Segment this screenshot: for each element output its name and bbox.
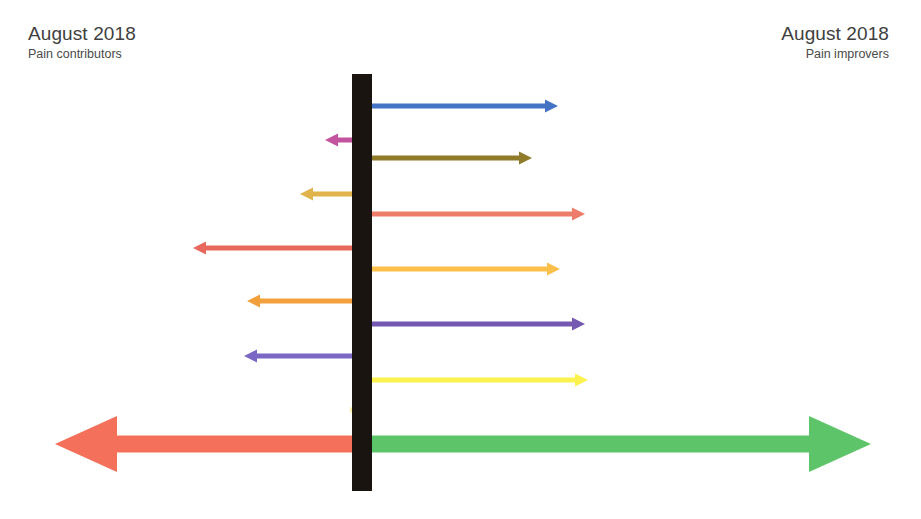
pain-improver-row[interactable] xyxy=(362,96,564,126)
diagram-canvas: August 2018 Pain contributors August 201… xyxy=(0,0,921,519)
pain-improver-row[interactable] xyxy=(362,259,566,289)
pain-improver-row[interactable] xyxy=(362,370,594,400)
pain-contributor-row[interactable] xyxy=(244,346,368,376)
header-right-subtitle: Pain improvers xyxy=(781,47,889,62)
pain-improver-row[interactable] xyxy=(362,204,591,234)
header-left-subtitle: Pain contributors xyxy=(28,47,136,62)
header-left-title: August 2018 xyxy=(28,22,136,45)
pain-improvers-mega-arrow[interactable] xyxy=(366,414,873,478)
pain-contributors-mega-arrow[interactable] xyxy=(55,414,357,478)
pain-improver-row[interactable] xyxy=(362,148,538,178)
pain-improver-row[interactable] xyxy=(362,314,591,344)
pain-contributor-row[interactable] xyxy=(193,238,368,268)
header-left: August 2018 Pain contributors xyxy=(28,22,136,62)
header-right-title: August 2018 xyxy=(781,22,889,45)
center-divider-bar xyxy=(352,74,372,491)
header-right: August 2018 Pain improvers xyxy=(781,22,889,62)
pain-contributor-row[interactable] xyxy=(247,291,368,321)
